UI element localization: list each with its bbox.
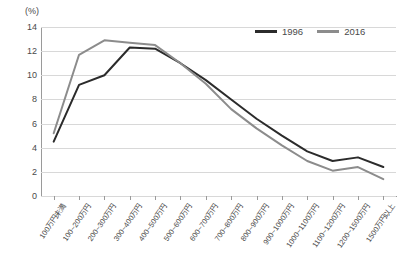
x-axis-tick-mark: [307, 196, 308, 200]
legend-label: 1996: [282, 26, 303, 37]
series-line-1996: [54, 48, 384, 168]
y-axis-tick-label: 4: [7, 143, 37, 153]
plot-area: [41, 27, 396, 196]
y-axis-tick-label: 10: [7, 70, 37, 80]
legend-label: 2016: [344, 26, 365, 37]
x-axis-tick-mark: [155, 196, 156, 200]
y-axis-tick-label: 6: [7, 119, 37, 129]
legend-swatch-icon: [255, 30, 277, 33]
x-axis-tick-mark: [206, 196, 207, 200]
x-axis-tick-mark: [54, 196, 55, 200]
y-axis-tick-label: 12: [7, 46, 37, 56]
series-line-2016: [54, 40, 384, 179]
x-axis-tick-mark: [282, 196, 283, 200]
y-axis-unit-label: (%): [25, 6, 39, 16]
gridline: [41, 196, 396, 197]
y-axis-tick-label: 2: [7, 167, 37, 177]
x-axis-tick-mark: [358, 196, 359, 200]
x-axis-tick-mark: [333, 196, 334, 200]
x-axis-tick-labels: 100万円未満100~200万円200~300万円300~400万円400~50…: [0, 201, 406, 262]
line-chart: (%) 02468101214 100万円未満100~200万円200~300万…: [0, 0, 406, 262]
legend-swatch-icon: [317, 30, 339, 33]
x-axis-tick-mark: [79, 196, 80, 200]
chart-legend: 19962016: [255, 26, 365, 37]
y-axis-tick-label: 14: [7, 22, 37, 32]
x-axis-tick-mark: [180, 196, 181, 200]
y-axis-tick-label: 0: [7, 191, 37, 201]
x-axis-tick-mark: [257, 196, 258, 200]
series-lines: [41, 27, 396, 196]
legend-entry-1996[interactable]: 1996: [255, 26, 303, 37]
x-axis-tick-mark: [231, 196, 232, 200]
x-axis-tick-mark: [130, 196, 131, 200]
x-axis-tick-mark: [383, 196, 384, 200]
y-axis-tick-label: 8: [7, 94, 37, 104]
legend-entry-2016[interactable]: 2016: [317, 26, 365, 37]
x-axis-tick-mark: [104, 196, 105, 200]
y-axis-tick-labels: 02468101214: [3, 27, 37, 196]
